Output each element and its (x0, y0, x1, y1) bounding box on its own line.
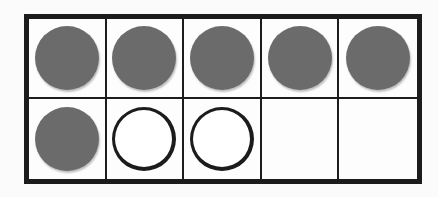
frame-cell (29, 19, 107, 99)
ten-frame (24, 14, 422, 184)
frame-cell (339, 19, 417, 99)
frame-cell (107, 19, 185, 99)
frame-cell (262, 19, 340, 99)
filled-counter-icon (346, 26, 410, 90)
filled-counter-icon (35, 107, 99, 171)
filled-counter-icon (268, 26, 332, 90)
frame-cell (339, 99, 417, 179)
empty-counter-icon (112, 107, 176, 171)
empty-counter-icon (190, 107, 254, 171)
filled-counter-icon (112, 26, 176, 90)
frame-cell (184, 99, 262, 179)
filled-counter-icon (35, 26, 99, 90)
frame-cell (184, 19, 262, 99)
frame-cell (107, 99, 185, 179)
frame-cell (262, 99, 340, 179)
frame-cell (29, 99, 107, 179)
filled-counter-icon (190, 26, 254, 90)
